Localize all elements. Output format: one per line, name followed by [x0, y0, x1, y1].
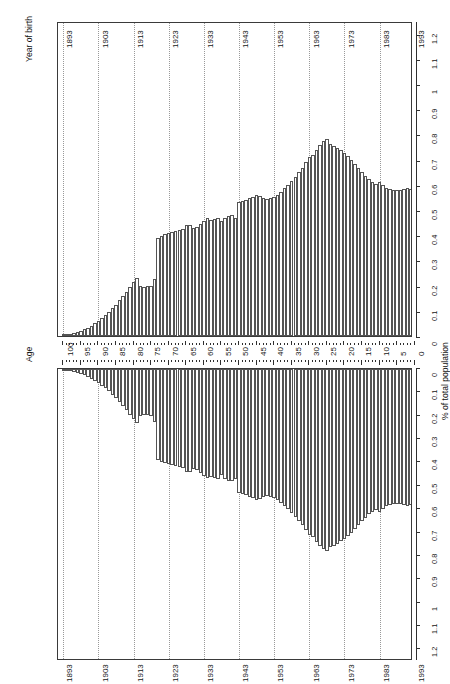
age-tick-minor [403, 343, 404, 345]
age-tick-minor [122, 343, 123, 345]
age-tick-minor [382, 343, 383, 345]
year-tick-label: 1903 [101, 664, 110, 682]
age-tick-minor [122, 360, 123, 362]
age-tick-minor [94, 343, 95, 345]
age-tick-minor [252, 343, 253, 345]
age-tick-minor [329, 343, 330, 345]
age-tick-minor [350, 360, 351, 362]
age-tick-minor [259, 343, 260, 345]
age-tick-minor [368, 343, 369, 345]
value-tick [416, 415, 420, 416]
age-tick-minor [66, 360, 67, 362]
age-tick-minor [87, 360, 88, 362]
age-tick-minor [104, 343, 105, 345]
age-tick-minor [365, 360, 366, 362]
age-tick-label: 95 [83, 347, 92, 356]
age-tick-minor [111, 360, 112, 362]
age-tick-minor [347, 360, 348, 362]
age-tick-major [115, 341, 116, 346]
age-tick-major [308, 360, 309, 365]
year-tick-label: 1973 [347, 30, 356, 48]
age-tick-minor [108, 360, 109, 362]
age-tick-minor [171, 343, 172, 345]
age-tick-minor [199, 360, 200, 362]
year-tick-label: 1963 [312, 664, 321, 682]
gridline [63, 23, 64, 336]
value-tick-label: 0.9 [430, 577, 439, 587]
value-tick-label: 1.2 [430, 33, 439, 43]
age-tick-minor [189, 343, 190, 345]
age-tick-minor [227, 360, 228, 362]
age-tick-major [185, 341, 186, 346]
age-tick-minor [213, 343, 214, 345]
age-tick-minor [224, 360, 225, 362]
age-tick-minor [182, 360, 183, 362]
value-tick [416, 211, 420, 212]
age-tick-minor [76, 343, 77, 345]
age-tick-minor [298, 343, 299, 345]
age-tick-minor [192, 343, 193, 345]
age-tick-minor [189, 360, 190, 362]
age-tick-minor [312, 360, 313, 362]
value-tick [416, 60, 420, 61]
value-tick [416, 110, 420, 111]
age-tick-major [256, 341, 257, 346]
age-tick-major [396, 360, 397, 365]
value-tick-label: 0.7 [430, 530, 439, 540]
age-tick-minor [249, 343, 250, 345]
year-tick-label: 1913 [136, 664, 145, 682]
age-tick-minor [270, 343, 271, 345]
age-tick-major [220, 360, 221, 365]
age-tick-label: 100 [66, 343, 75, 356]
age-tick-major [396, 341, 397, 346]
age-tick-minor [340, 360, 341, 362]
year-tick-label: 1933 [206, 30, 215, 48]
age-tick-minor [161, 360, 162, 362]
age-tick-minor [245, 343, 246, 345]
age-tick-minor [277, 360, 278, 362]
value-tick [416, 461, 420, 462]
age-tick-label: 25 [329, 347, 338, 356]
age-tick-minor [403, 360, 404, 362]
age-tick-minor [284, 343, 285, 345]
age-tick-minor [227, 343, 228, 345]
year-tick-label: 1993 [417, 664, 426, 682]
age-tick-major [273, 341, 274, 346]
value-tick-label: 0.4 [430, 460, 439, 470]
age-tick-minor [287, 343, 288, 345]
age-tick-major [308, 341, 309, 346]
age-tick-label: 15 [364, 347, 373, 356]
age-tick-major [150, 341, 151, 346]
year-tick-label: 1923 [171, 664, 180, 682]
age-tick-major [97, 360, 98, 365]
value-tick-label: 1 [430, 606, 439, 610]
age-tick-minor [389, 360, 390, 362]
age-tick-minor [301, 343, 302, 345]
age-tick-minor [108, 343, 109, 345]
age-tick-minor [319, 343, 320, 345]
value-tick [416, 578, 420, 579]
age-tick-major [115, 360, 116, 365]
value-tick [416, 368, 420, 369]
age-tick-minor [217, 343, 218, 345]
age-tick-minor [336, 360, 337, 362]
age-tick-major [220, 341, 221, 346]
age-tick-minor [235, 343, 236, 345]
year-of-birth-axis-title: Year of birth [24, 16, 34, 62]
age-tick-minor [365, 343, 366, 345]
age-tick-minor [242, 343, 243, 345]
age-tick-minor [312, 343, 313, 345]
age-tick-major [343, 360, 344, 365]
year-tick-label: 1913 [136, 30, 145, 48]
gridline [63, 369, 64, 659]
value-axis-line [416, 22, 417, 337]
year-tick-label: 1923 [171, 30, 180, 48]
year-tick-label: 1983 [382, 664, 391, 682]
age-tick-minor [83, 343, 84, 345]
age-tick-minor [375, 343, 376, 345]
age-tick-minor [315, 360, 316, 362]
age-tick-minor [175, 360, 176, 362]
age-tick-minor [90, 360, 91, 362]
age-tick-minor [154, 360, 155, 362]
